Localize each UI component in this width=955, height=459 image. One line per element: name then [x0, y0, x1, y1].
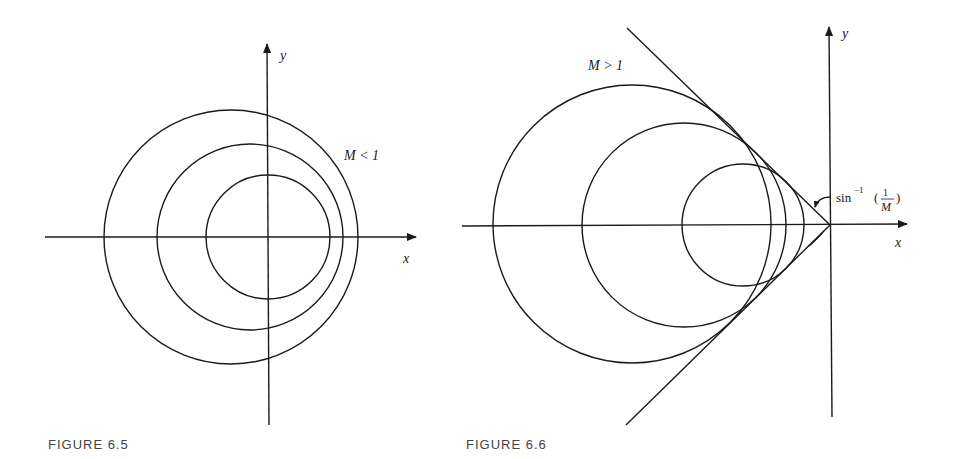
figure-caption-6-5: FIGURE 6.5	[48, 437, 129, 452]
figure-6-5: y x M < 1	[45, 44, 416, 425]
angle-pointer-arrow	[815, 197, 830, 207]
figure-caption-6-6: FIGURE 6.6	[466, 437, 547, 452]
condition-label: M > 1	[587, 58, 623, 73]
condition-label: M < 1	[343, 148, 379, 163]
diagram-canvas: y x M < 1 y x M > 1 sin −1 ( 1 M )	[0, 0, 955, 459]
x-axis	[462, 224, 907, 226]
mach-cone-lower-line	[626, 225, 830, 425]
angle-label: sin −1 ( 1 M )	[836, 185, 900, 214]
angle-arc	[809, 232, 823, 246]
y-axis-label: y	[278, 48, 287, 63]
x-axis-label: x	[894, 235, 902, 250]
angle-label-function: sin	[836, 190, 852, 205]
angle-label-numerator: 1	[883, 187, 888, 198]
x-axis-label: x	[402, 251, 410, 266]
y-axis	[267, 44, 269, 425]
angle-label-open-paren: (	[874, 190, 878, 205]
angle-label-denominator: M	[880, 200, 892, 214]
y-axis-label: y	[840, 26, 849, 41]
angle-label-close-paren: )	[896, 190, 900, 205]
figure-6-6: y x M > 1 sin −1 ( 1 M )	[462, 26, 907, 425]
y-axis	[829, 27, 832, 417]
angle-label-superscript: −1	[854, 185, 864, 195]
